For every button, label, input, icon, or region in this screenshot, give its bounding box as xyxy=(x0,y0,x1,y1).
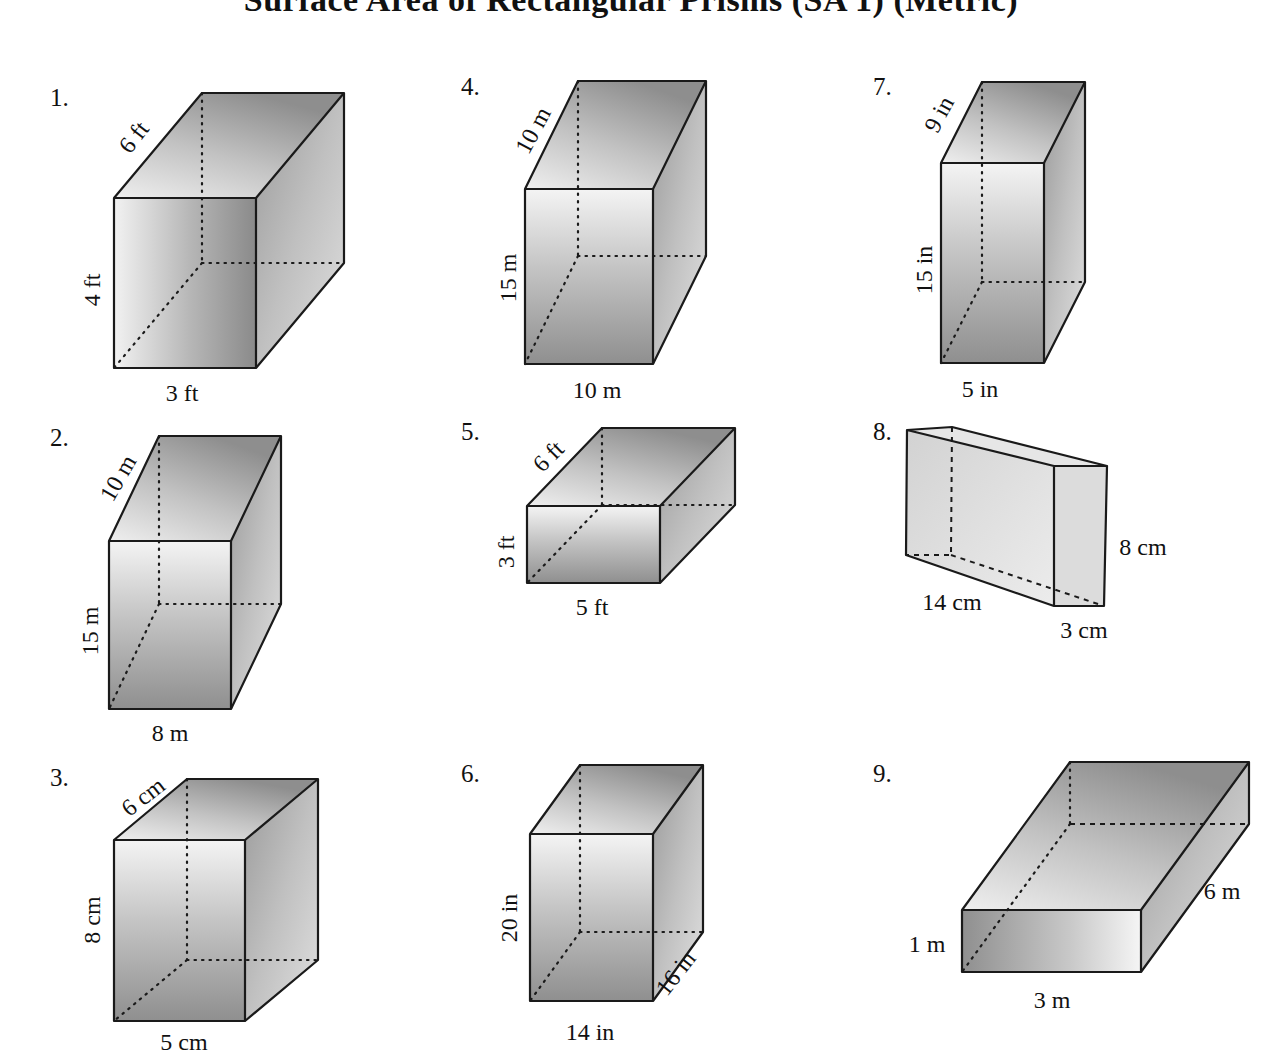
problem-9: 9.6 m1 m3 m xyxy=(873,760,1249,1013)
dimension-label: 8 cm xyxy=(1119,534,1167,560)
problem-5: 5.6 ft3 ft5 ft xyxy=(461,418,735,620)
problem-number: 5. xyxy=(461,418,480,445)
dimension-label: 15 in xyxy=(911,246,937,295)
dimension-label: 6 m xyxy=(1204,878,1241,904)
problem-number: 4. xyxy=(461,73,480,100)
problem-2: 2.10 m15 m8 m xyxy=(50,424,281,746)
front-face xyxy=(109,541,231,709)
front-face xyxy=(941,163,1044,363)
problem-number: 9. xyxy=(873,760,892,787)
front-face xyxy=(962,910,1141,972)
dimension-label: 10 m xyxy=(573,377,622,403)
problem-number: 1. xyxy=(50,84,69,111)
dimension-label: 4 ft xyxy=(79,273,105,306)
dimension-label: 15 m xyxy=(77,606,103,655)
dimension-label: 1 m xyxy=(909,931,946,957)
front-face xyxy=(114,840,245,1021)
worksheet-page: Surface Area of Rectangular Prisms (SA 1… xyxy=(0,0,1262,1055)
dimension-label: 14 in xyxy=(566,1019,615,1045)
problem-number: 6. xyxy=(461,760,480,787)
front-face xyxy=(114,198,256,368)
problem-number: 8. xyxy=(873,418,892,445)
dimension-label: 5 ft xyxy=(576,594,609,620)
front-face xyxy=(525,189,653,364)
problem-4: 4.10 m15 m10 m xyxy=(461,73,706,403)
problem-7: 7.9 in15 in5 in xyxy=(873,73,1085,402)
dimension-label: 8 m xyxy=(152,720,189,746)
dimension-label: 6 ft xyxy=(113,116,154,158)
problem-number: 3. xyxy=(50,764,69,791)
problem-6: 6.20 in14 in16 in xyxy=(461,760,703,1045)
problem-8: 8.8 cm14 cm3 cm xyxy=(873,418,1167,643)
dimension-label: 3 ft xyxy=(166,380,199,406)
problem-number: 2. xyxy=(50,424,69,451)
dimension-label: 15 m xyxy=(495,253,521,302)
dimension-label: 5 cm xyxy=(160,1029,208,1055)
dimension-label: 14 cm xyxy=(922,589,982,615)
problem-3: 3.6 cm8 cm5 cm xyxy=(50,764,318,1055)
dimension-label: 3 cm xyxy=(1060,617,1108,643)
dimension-label: 9 in xyxy=(919,92,959,137)
dimension-label: 20 in xyxy=(496,894,522,943)
slab-front-face xyxy=(1054,466,1107,606)
prism-figures: 1.6 ft4 ft3 ft2.10 m15 m8 m3.6 cm8 cm5 c… xyxy=(0,0,1262,1055)
problem-1: 1.6 ft4 ft3 ft xyxy=(50,84,344,406)
problem-number: 7. xyxy=(873,73,892,100)
front-face xyxy=(527,506,660,583)
dimension-label: 8 cm xyxy=(79,896,105,944)
dimension-label: 3 ft xyxy=(493,535,519,568)
dimension-label: 5 in xyxy=(962,376,999,402)
dimension-label: 3 m xyxy=(1034,987,1071,1013)
